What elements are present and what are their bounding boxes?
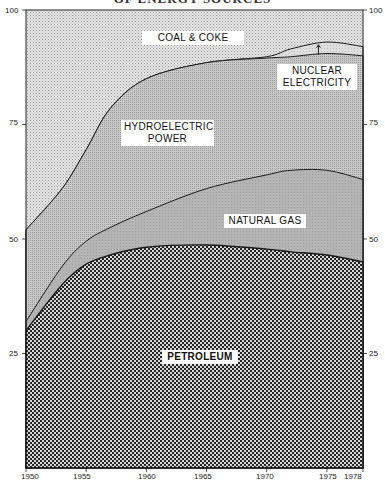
label-nuclear-line2: ELECTRICITY <box>280 77 354 89</box>
x-tick-1975: 1975 <box>319 472 337 481</box>
label-nuclear-line1: NUCLEAR <box>280 65 354 77</box>
y-tick-left-50: 50 <box>9 235 18 244</box>
y-tick-right-25: 25 <box>369 349 378 358</box>
label-natural-gas: NATURAL GAS <box>224 214 306 228</box>
label-petroleum: PETROLEUM <box>162 350 238 364</box>
y-tick-right-75: 75 <box>369 118 378 127</box>
label-hydroelectric-power: HYDROELECTRIC POWER <box>121 120 214 146</box>
label-hydro-line1: HYDROELECTRIC <box>124 121 211 133</box>
y-tick-left-25: 25 <box>9 349 18 358</box>
label-hydro-line2: POWER <box>124 133 211 145</box>
x-tick-1970: 1970 <box>256 472 274 481</box>
label-coal-coke: COAL & COKE <box>142 31 244 45</box>
x-tick-1955: 1955 <box>73 472 91 481</box>
label-nuclear-electricity: NUCLEAR ELECTRICITY <box>277 64 357 90</box>
x-tick-1950: 1950 <box>21 472 39 481</box>
x-tick-1960: 1960 <box>138 472 156 481</box>
y-tick-left-75: 75 <box>9 118 18 127</box>
y-tick-right-50: 50 <box>369 235 378 244</box>
y-tick-left-100: 100 <box>5 6 18 15</box>
y-tick-right-100: 100 <box>369 6 382 15</box>
x-tick-1965: 1965 <box>194 472 212 481</box>
x-tick-1978: 1978 <box>344 472 362 481</box>
